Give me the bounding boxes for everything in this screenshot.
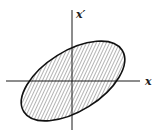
x-axis-label: x <box>144 75 152 88</box>
phase-space-diagram: x′ x <box>0 0 157 139</box>
y-axis-label: x′ <box>75 8 86 21</box>
